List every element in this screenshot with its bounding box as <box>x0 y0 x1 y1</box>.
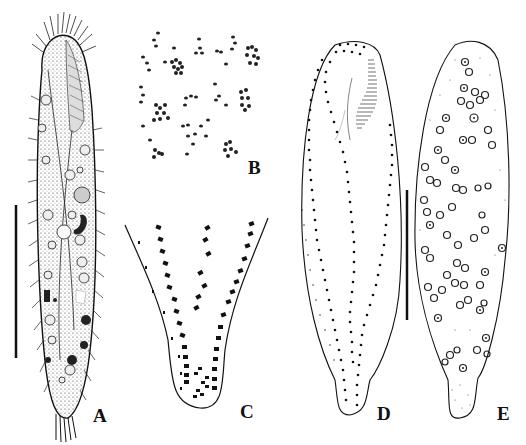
panel-label-a: A <box>93 406 107 425</box>
panel-e-nuclei <box>415 41 509 418</box>
panel-c-posterior <box>125 218 268 408</box>
panel-label-c: C <box>240 402 254 421</box>
panel-a-cell <box>28 12 105 442</box>
panel-b-granules <box>139 31 260 159</box>
cirral-rows <box>301 43 393 407</box>
panel-label-d: D <box>377 404 391 423</box>
panel-label-b: B <box>248 158 261 177</box>
figure-canvas <box>0 0 526 445</box>
panel-d-ciliature <box>301 42 401 415</box>
panel-label-e: E <box>497 404 510 423</box>
